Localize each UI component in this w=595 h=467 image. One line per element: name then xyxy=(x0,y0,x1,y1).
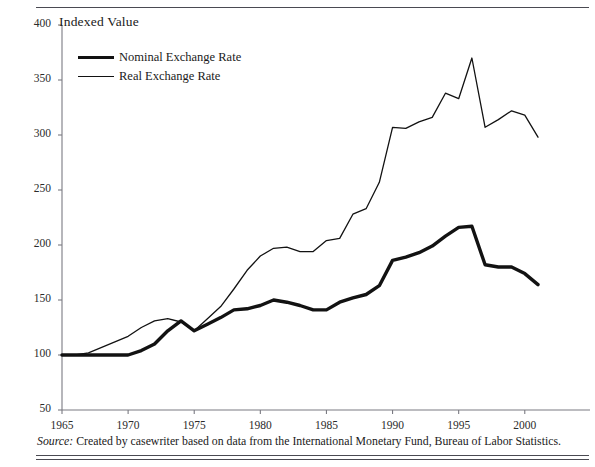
y-tick-label: 50 xyxy=(19,402,51,414)
x-tick-label: 1995 xyxy=(434,419,484,431)
legend-item: Real Exchange Rate xyxy=(78,67,241,86)
y-axis-ticks xyxy=(58,25,62,410)
x-tick-label: 2000 xyxy=(500,419,550,431)
legend-item: Nominal Exchange Rate xyxy=(78,48,241,67)
x-tick-label: 1965 xyxy=(37,419,87,431)
x-axis-ticks xyxy=(62,410,525,414)
source-note: Source: Created by casewriter based on d… xyxy=(37,434,561,449)
legend-line-icon-nominal xyxy=(78,56,114,59)
chart-legend: Nominal Exchange Rate Real Exchange Rate xyxy=(78,48,241,86)
y-tick-label: 150 xyxy=(19,292,51,304)
bottom-divider-inner xyxy=(36,459,589,460)
bottom-divider-outer xyxy=(36,455,589,456)
source-body: Created by casewriter based on data from… xyxy=(73,434,561,448)
x-tick-label: 1975 xyxy=(169,419,219,431)
data-series-group xyxy=(62,58,538,355)
y-tick-label: 400 xyxy=(19,17,51,29)
series-line-real-exchange-rate xyxy=(62,58,538,355)
x-tick-label: 1980 xyxy=(235,419,285,431)
y-tick-label: 350 xyxy=(19,72,51,84)
y-tick-label: 200 xyxy=(19,237,51,249)
y-axis-title: Indexed Value xyxy=(59,14,139,30)
y-tick-label: 100 xyxy=(19,347,51,359)
chart-plot-area: Indexed Value 40035030025020015010050 19… xyxy=(0,0,595,430)
source-label: Source: xyxy=(37,434,73,448)
legend-label-real: Real Exchange Rate xyxy=(119,69,220,84)
legend-label-nominal: Nominal Exchange Rate xyxy=(119,50,241,65)
x-tick-label: 1970 xyxy=(103,419,153,431)
x-tick-label: 1985 xyxy=(301,419,351,431)
y-tick-label: 250 xyxy=(19,182,51,194)
legend-line-icon-real xyxy=(78,76,114,77)
series-line-nominal-exchange-rate xyxy=(62,226,538,355)
exhibit-figure: Indexed Value 40035030025020015010050 19… xyxy=(0,0,595,467)
y-tick-label: 300 xyxy=(19,127,51,139)
x-tick-label: 1990 xyxy=(368,419,418,431)
